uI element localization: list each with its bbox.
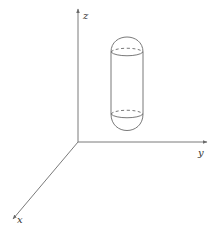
x-axis-label: x [17, 214, 23, 225]
y-axis-label: y [197, 147, 204, 158]
capsule-top-seam-back [111, 48, 143, 52]
x-axis [13, 142, 78, 219]
capsule [111, 37, 143, 131]
z-axis-label: z [82, 10, 89, 21]
axes [13, 9, 207, 219]
coordinate-diagram: z y x [0, 0, 219, 235]
capsule-bottom-seam-back [111, 110, 143, 114]
capsule-top-seam-front [111, 52, 143, 56]
capsule-bottom-seam-front [111, 114, 143, 118]
